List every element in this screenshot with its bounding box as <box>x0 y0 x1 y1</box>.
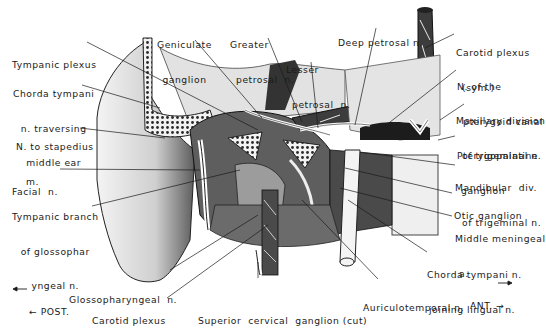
label-auriculotemporal-n: Auriculotemporal n. <box>363 279 464 325</box>
label-carotid-plexus: Carotid plexus <box>92 292 166 330</box>
label-posterior: ← POST. <box>13 283 70 329</box>
label-greater-petrosal-n: Greater petrosal n. <box>230 16 294 97</box>
label-superior-cervical-ganglion: Superior cervical ganglion (cut) <box>198 292 367 330</box>
label-deep-petrosal-n: Deep petrosal n. <box>338 14 423 60</box>
label-anterior: ANT. → <box>470 277 505 323</box>
label-geniculate-ganglion: Geniculate ganglion <box>157 16 212 97</box>
